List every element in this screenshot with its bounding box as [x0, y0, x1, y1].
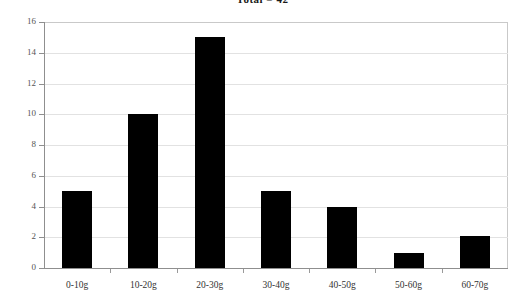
x-tick-mark [442, 269, 443, 273]
x-tick-label: 60-70g [435, 281, 515, 291]
histogram-chart: Total = 42 0246810121416 0-10g10-20g20-3… [0, 0, 525, 306]
x-tick-mark [177, 269, 178, 273]
x-tick-mark [375, 269, 376, 273]
x-axis-ticks-group: 0-10g10-20g20-30g30-40g40-50g50-60g60-70… [0, 0, 525, 306]
x-tick-mark [110, 269, 111, 273]
x-tick-mark [309, 269, 310, 273]
x-tick-mark [243, 269, 244, 273]
